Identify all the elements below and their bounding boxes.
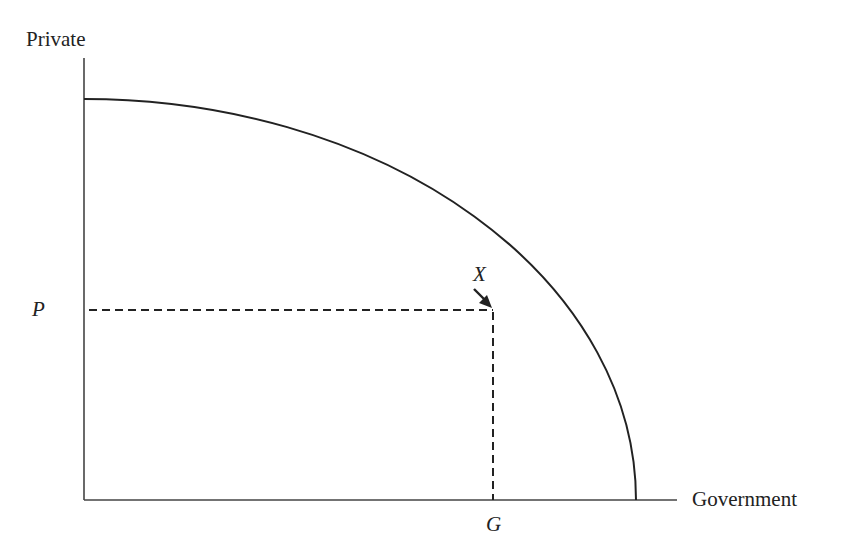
y-axis-label: Private [26,29,85,50]
ppf-diagram [0,0,862,558]
point-x-label: X [473,264,486,285]
frontier-curve [84,99,636,500]
x-tick-label-g: G [486,514,501,535]
x-axis-label: Government [692,489,797,510]
y-tick-label-p: P [32,299,45,320]
